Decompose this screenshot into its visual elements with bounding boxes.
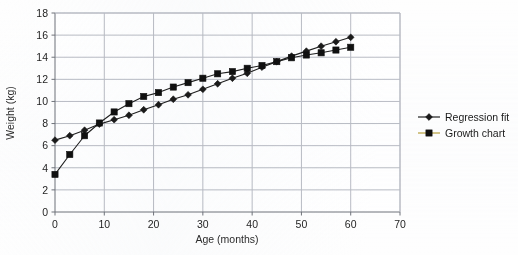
data-point-marker-square [200,75,206,81]
y-axis-tick-label: 18 [36,7,48,19]
y-axis-tick-label: 2 [42,184,48,196]
y-axis-tick-label: 14 [36,51,48,63]
y-axis-title: Weight (kg) [4,86,16,140]
x-axis-tick-label: 20 [148,218,160,230]
x-axis-tick-label: 70 [394,218,406,230]
x-axis-tick-label: 50 [296,218,308,230]
data-point-marker-square [274,59,280,65]
data-point-marker-square [141,93,147,99]
x-axis-tick-label: 30 [197,218,209,230]
plot-area-background [55,13,400,212]
data-point-marker-square [96,120,102,126]
y-axis-ticks [52,13,56,212]
data-point-marker-square [155,90,161,96]
data-point-marker-square [244,65,250,71]
x-axis-title: Age (months) [195,233,258,245]
data-point-marker-square [111,109,117,115]
data-point-marker-square [126,101,132,107]
data-point-marker-square [215,71,221,77]
x-axis-tick-label: 60 [345,218,357,230]
weight-vs-age-line-chart: 024681012141618 010203040506070 Age (mon… [0,0,518,255]
data-point-marker-diamond [426,114,433,121]
y-axis-tick-label: 12 [36,73,48,85]
y-axis-tick-label: 16 [36,29,48,41]
y-axis-tick-label: 10 [36,95,48,107]
y-axis-tick-label: 8 [42,117,48,129]
data-point-marker-square [52,171,58,177]
data-point-marker-square [348,44,354,50]
data-point-marker-square [333,47,339,53]
y-axis-tick-labels: 024681012141618 [36,7,48,218]
legend-label: Growth chart [445,127,505,139]
data-point-marker-square [185,80,191,86]
x-axis-ticks [55,212,400,216]
data-point-marker-square [170,84,176,90]
legend-label: Regression fit [445,111,509,123]
x-axis-tick-label: 40 [246,218,258,230]
y-axis-tick-label: 6 [42,139,48,151]
x-axis-tick-label: 0 [52,218,58,230]
data-point-marker-square [303,52,309,58]
data-point-marker-square [81,133,87,139]
data-point-marker-square [318,50,324,56]
y-axis-tick-label: 4 [42,162,48,174]
chart-figure: 024681012141618 010203040506070 Age (mon… [0,0,518,255]
data-point-marker-square [288,55,294,61]
x-axis-tick-labels: 010203040506070 [52,218,406,230]
data-point-marker-square [67,151,73,157]
data-point-marker-square [426,130,432,136]
x-axis-tick-label: 10 [98,218,110,230]
chart-legend: Regression fitGrowth chart [418,111,509,139]
data-point-marker-square [229,68,235,74]
y-axis-tick-label: 0 [42,206,48,218]
data-point-marker-square [259,62,265,68]
